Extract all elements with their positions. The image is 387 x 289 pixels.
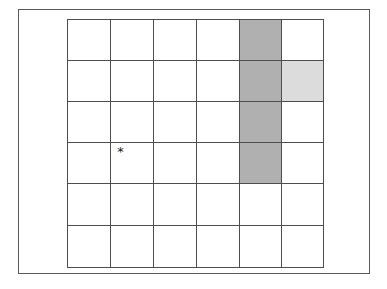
diagram-canvas: * [0, 0, 387, 289]
grid-cell-r5-c4[interactable] [196, 183, 241, 227]
grid-cell-r3-c5[interactable] [239, 101, 283, 144]
grid-cell-r2-c6[interactable] [281, 60, 324, 103]
grid-cell-r3-c2[interactable] [110, 101, 155, 144]
grid-cell-r5-c2[interactable] [110, 183, 155, 227]
grid-cell-r5-c1[interactable] [67, 183, 112, 227]
grid-cell-r2-c3[interactable] [153, 60, 198, 103]
grid-cell-r1-c6[interactable] [281, 19, 324, 62]
grid-cell-r5-c3[interactable] [153, 183, 198, 227]
grid-cell-r6-c2[interactable] [110, 225, 155, 268]
grid-cell-r1-c1[interactable] [67, 19, 112, 62]
star-marker-icon: * [117, 145, 124, 158]
grid-cell-r6-c6[interactable] [281, 225, 324, 268]
grid-cell-r6-c3[interactable] [153, 225, 198, 268]
grid-cell-r2-c1[interactable] [67, 60, 112, 103]
grid-cell-r5-c6[interactable] [281, 183, 324, 227]
grid-cell-r6-c1[interactable] [67, 225, 112, 268]
grid-cell-r1-c4[interactable] [196, 19, 241, 62]
grid-cell-r2-c2[interactable] [110, 60, 155, 103]
grid-cell-r3-c3[interactable] [153, 101, 198, 144]
grid-cell-r1-c2[interactable] [110, 19, 155, 62]
grid-container: * [68, 20, 324, 267]
grid-cell-r4-c6[interactable] [281, 142, 324, 185]
grid-cell-r4-c2[interactable]: * [110, 142, 155, 185]
grid-cell-r2-c4[interactable] [196, 60, 241, 103]
grid-cell-r3-c1[interactable] [67, 101, 112, 144]
grid-cell-r4-c4[interactable] [196, 142, 241, 185]
grid-cell-r6-c4[interactable] [196, 225, 241, 268]
grid-cell-r5-c5[interactable] [239, 183, 283, 227]
grid-cell-r4-c1[interactable] [67, 142, 112, 185]
grid-cell-r6-c5[interactable] [239, 225, 283, 268]
grid-cell-r1-c3[interactable] [153, 19, 198, 62]
grid-cell-r4-c5[interactable] [239, 142, 283, 185]
grid-cell-r4-c3[interactable] [153, 142, 198, 185]
grid-cell-r2-c5[interactable] [239, 60, 283, 103]
grid-cell-r3-c4[interactable] [196, 101, 241, 144]
grid-cell-r3-c6[interactable] [281, 101, 324, 144]
grid-cell-r1-c5[interactable] [239, 19, 283, 62]
